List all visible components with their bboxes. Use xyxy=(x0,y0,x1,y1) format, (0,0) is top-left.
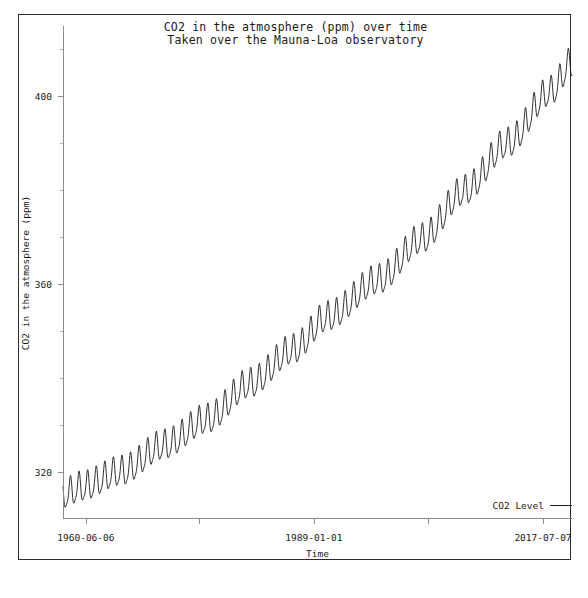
y-tick-mark-minor xyxy=(60,143,63,144)
axes-area: 1960-06-061989-01-012017-07-07 320360400… xyxy=(63,26,572,519)
y-tick-mark-minor xyxy=(60,331,63,332)
y-tick-mark-minor xyxy=(60,378,63,379)
x-tick-mark xyxy=(314,519,315,524)
legend-label: CO2 Level xyxy=(493,500,544,511)
y-tick-mark-minor xyxy=(60,190,63,191)
y-tick-mark-minor xyxy=(60,49,63,50)
x-tick-label: 2017-07-07 xyxy=(514,532,571,543)
legend: CO2 Level xyxy=(493,500,572,511)
x-axis-title: Time xyxy=(63,548,572,559)
y-tick-mark-minor xyxy=(60,425,63,426)
y-tick-label: 320 xyxy=(35,467,52,478)
y-tick-label: 400 xyxy=(35,91,52,102)
x-tick-mark xyxy=(428,519,429,524)
x-axis-line xyxy=(63,518,572,519)
co2-level-series xyxy=(63,26,572,519)
y-axis-title: CO2 in the atmosphere (ppm) xyxy=(20,195,31,349)
y-tick-label: 360 xyxy=(35,279,52,290)
series-line-path xyxy=(63,48,572,507)
chart-canvas: CO2 in the atmosphere (ppm) over time Ta… xyxy=(0,0,588,598)
x-tick-mark xyxy=(199,519,200,524)
plot-frame: CO2 in the atmosphere (ppm) over time Ta… xyxy=(18,14,571,560)
x-tick-mark xyxy=(543,519,544,524)
x-tick-label: 1989-01-01 xyxy=(285,532,342,543)
y-axis-line xyxy=(63,26,64,519)
x-tick-mark xyxy=(86,519,87,524)
legend-line-swatch xyxy=(550,505,572,506)
y-tick-mark xyxy=(58,96,63,97)
x-tick-label: 1960-06-06 xyxy=(57,532,114,543)
y-tick-mark xyxy=(58,284,63,285)
y-tick-mark xyxy=(58,472,63,473)
plot-area xyxy=(63,26,572,519)
y-tick-mark-minor xyxy=(60,237,63,238)
